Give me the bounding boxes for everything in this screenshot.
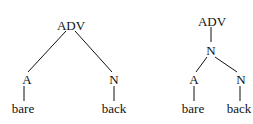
edge [215,57,237,72]
edge [196,57,207,72]
tree-right-root: ADV [198,14,227,29]
tree-left-root: ADV [57,18,86,33]
tree-left-node-a: A [22,72,32,87]
tree-right-node-a: A [189,72,199,87]
edge [28,31,66,72]
tree-left-leaf-bare: bare [12,101,35,116]
edge [75,31,112,72]
tree-left: ADV A N bare back [12,18,127,116]
tree-left-node-n: N [109,72,119,87]
tree-right-mid-node-n: N [206,43,216,58]
tree-right-leaf-bare: bare [182,101,205,116]
tree-right-node-n: N [236,72,246,87]
syntax-trees-diagram: ADV A N bare back ADV N A N bare back [0,0,253,124]
tree-right-leaf-back: back [227,101,252,116]
tree-right: ADV N A N bare back [182,14,252,116]
tree-left-leaf-back: back [102,101,127,116]
